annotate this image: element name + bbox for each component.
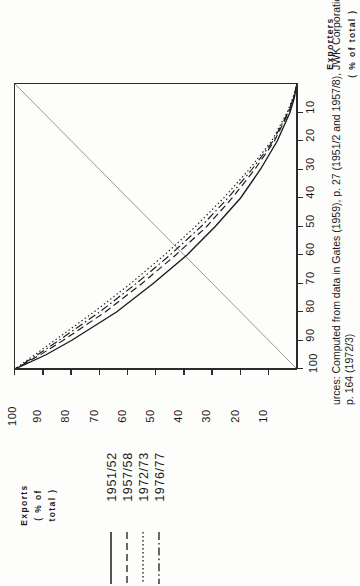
tick-text: 30 [304, 157, 316, 170]
exports-tick-20 [240, 369, 241, 375]
tick-text: 70 [304, 271, 316, 284]
source-note-line-2: p. 164 (1972/3) [343, 334, 356, 405]
legend-swatch-1951-52 [109, 532, 113, 584]
exports-axis-unit-line2: total ) [47, 475, 57, 535]
exports-tick-100 [14, 369, 15, 375]
tick-text: 30 [200, 409, 212, 422]
legend-swatch-1972-73 [141, 532, 145, 584]
exporters-tick-label-10: 10 [303, 101, 316, 113]
tick-text: 50 [144, 409, 156, 422]
equality-diagonal-line [15, 84, 297, 369]
exports-tick-30 [211, 369, 212, 375]
exports-tick-10 [268, 369, 269, 375]
exports-tick-label-20: 20 [228, 410, 241, 422]
plot-area [14, 83, 296, 368]
legend-swatch-1957-58 [125, 532, 129, 584]
tick-text: 50 [304, 214, 316, 227]
exports-tick-90 [42, 369, 43, 375]
exports-tick-label-60: 60 [115, 410, 128, 422]
exports-tick-40 [183, 369, 184, 375]
exports-axis-title-text: Exports [19, 475, 29, 535]
tick-text: 60 [304, 242, 316, 255]
exporters-tick-label-50: 50 [303, 215, 316, 227]
exports-tick-label-100: 100 [2, 410, 22, 422]
tick-text: 90 [304, 328, 316, 341]
tick-text: 100 [6, 406, 18, 426]
tick-text: 80 [304, 299, 316, 312]
exports-tick-label-40: 40 [171, 410, 184, 422]
exports-tick-label-10: 10 [256, 410, 269, 422]
exports-tick-80 [70, 369, 71, 375]
tick-text: 80 [59, 409, 71, 422]
exporters-tick-label-40: 40 [303, 186, 316, 198]
exports-tick-label-30: 30 [199, 410, 212, 422]
tick-text: 10 [256, 409, 268, 422]
exporters-tick-label-60: 60 [303, 243, 316, 255]
legend-label-1976-77[interactable]: 1976/77 [134, 470, 186, 484]
exporters-axis-unit-text: ( % of total ) [345, 4, 360, 84]
exports-tick-label-80: 80 [58, 410, 71, 422]
exporters-tick-label-20: 20 [303, 129, 316, 141]
exporters-tick-label-90: 90 [303, 329, 316, 341]
exports-tick-60 [127, 369, 128, 375]
tick-text: 40 [172, 409, 184, 422]
exports-tick-label-90: 90 [30, 410, 43, 422]
legend-text: 1976/77 [153, 451, 167, 503]
exporters-tick-label-80: 80 [303, 300, 316, 312]
tick-text: 20 [304, 128, 316, 141]
tick-text: 60 [115, 409, 127, 422]
exports-tick-label-70: 70 [87, 410, 100, 422]
exports-tick-label-50: 50 [143, 410, 156, 422]
exporters-tick-label-100: 100 [303, 357, 323, 369]
lorenz-curves-svg [15, 84, 297, 369]
source-note-line-1: urces: Computed from data in Gates (1959… [330, 0, 343, 405]
exports-tick-50 [155, 369, 156, 375]
tick-text: 10 [304, 100, 316, 113]
exports-tick-70 [99, 369, 100, 375]
tick-text: 100 [307, 353, 319, 373]
tick-text: 90 [31, 409, 43, 422]
exporters-tick-label-30: 30 [303, 158, 316, 170]
legend-swatch-1976-77 [157, 532, 161, 584]
exporters-tick-label-70: 70 [303, 272, 316, 284]
tick-text: 70 [87, 409, 99, 422]
tick-text: 40 [304, 185, 316, 198]
tick-text: 20 [228, 409, 240, 422]
exports-axis-unit-line1: ( % of [33, 475, 43, 535]
